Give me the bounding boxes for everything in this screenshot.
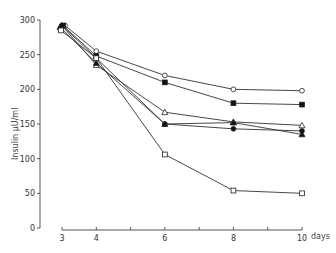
- x-tick-label: 4: [94, 234, 99, 243]
- series-triangle-open: [59, 23, 305, 128]
- series-triangle-filled: [57, 24, 305, 137]
- data-point: [60, 23, 65, 28]
- y-tick-label: 150: [20, 120, 35, 129]
- data-point: [231, 87, 236, 92]
- x-tick-label: 8: [231, 234, 236, 243]
- data-point: [162, 122, 167, 127]
- series-group: [57, 23, 305, 196]
- x-tick-label: 6: [162, 234, 167, 243]
- data-point: [231, 101, 236, 106]
- data-point: [94, 49, 99, 54]
- data-point: [300, 102, 305, 107]
- y-tick-label: 100: [20, 155, 35, 164]
- y-tick-label: 300: [20, 16, 35, 25]
- x-tick-label: 10: [297, 234, 307, 243]
- data-point: [231, 188, 236, 193]
- data-point: [300, 88, 305, 93]
- data-point: [231, 126, 236, 131]
- y-tick-label: 200: [20, 85, 35, 94]
- data-point: [94, 56, 99, 61]
- data-point: [300, 191, 305, 196]
- data-point: [59, 28, 64, 33]
- y-tick-label: 250: [20, 51, 35, 60]
- data-point: [162, 73, 167, 78]
- insulin-line-chart: 050100150200250300346810 Insulin µU/ml d…: [0, 0, 336, 253]
- y-tick-label: 0: [30, 224, 35, 233]
- x-tick-label: 3: [59, 234, 64, 243]
- series-circle-filled: [60, 23, 305, 133]
- data-point: [162, 80, 167, 85]
- data-point: [300, 129, 305, 134]
- y-tick-label: 50: [25, 189, 35, 198]
- data-point: [162, 152, 167, 157]
- y-axis-label: Insulin µU/ml: [11, 108, 20, 160]
- x-axis-label: days: [311, 232, 330, 241]
- data-point: [162, 109, 168, 114]
